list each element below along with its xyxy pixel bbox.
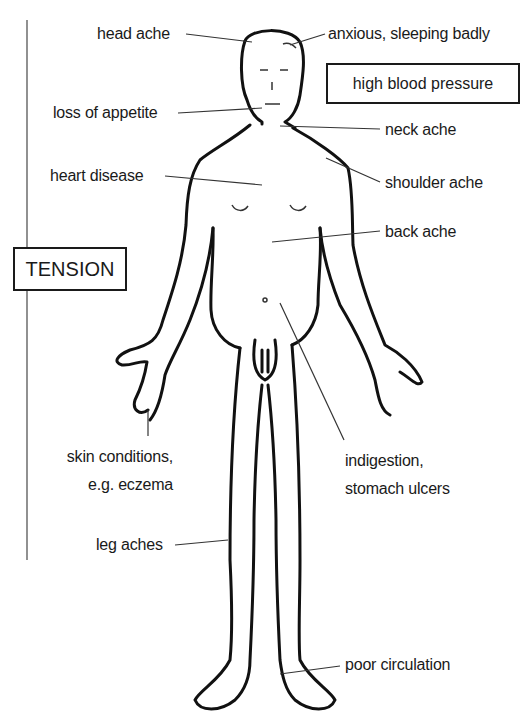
- label-shoulder-ache: shoulder ache: [385, 173, 483, 192]
- label-anxious-sleeping-badly: anxious, sleeping badly: [328, 24, 490, 43]
- label-skin-conditions-line1: skin conditions,: [40, 447, 173, 466]
- label-leg-aches: leg aches: [96, 535, 163, 554]
- label-loss-of-appetite: loss of appetite: [53, 103, 157, 122]
- leader-lines: [148, 34, 380, 674]
- label-poor-circulation: poor circulation: [345, 655, 450, 674]
- label-back-ache: back ache: [385, 222, 456, 241]
- label-heart-disease: heart disease: [50, 166, 143, 185]
- label-skin-conditions-line2: e.g. eczema: [40, 475, 173, 494]
- label-skin-conditions: skin conditions, e.g. eczema: [40, 447, 173, 494]
- body-outline: [117, 31, 422, 709]
- label-head-ache: head ache: [97, 24, 170, 43]
- label-indigestion: indigestion, stomach ulcers: [345, 451, 450, 498]
- label-indigestion-line1: indigestion,: [345, 451, 450, 470]
- label-indigestion-line2: stomach ulcers: [345, 479, 450, 498]
- label-neck-ache: neck ache: [385, 120, 456, 139]
- tension-box: TENSION: [13, 247, 127, 291]
- high-blood-pressure-box: high blood pressure: [326, 63, 520, 104]
